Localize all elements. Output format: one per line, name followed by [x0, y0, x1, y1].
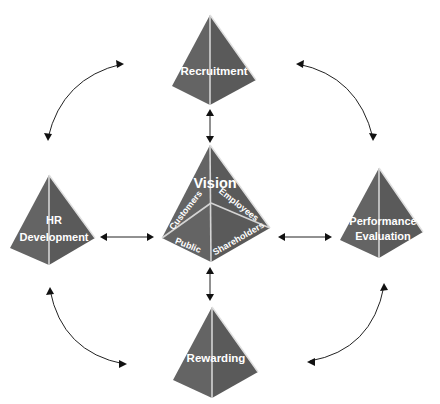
cycle-arrow-bottom-left — [46, 287, 127, 368]
cycle-arrow-top-right — [296, 60, 377, 141]
hr-cycle-diagram: Recruitment HR Development Performance E… — [0, 0, 440, 404]
pyramid-rewarding: Rewarding — [173, 307, 258, 398]
node-label-performance-evaluation-line1: Performance — [349, 215, 416, 227]
cycle-arrow-bottom-right — [307, 283, 388, 366]
node-label-recruitment: Recruitment — [180, 65, 247, 77]
pyramid-recruitment: Recruitment — [172, 15, 256, 105]
pyramid-hr-development: HR Development — [10, 175, 95, 265]
cycle-arrow-top-left — [44, 60, 124, 141]
node-label-hr-development-line1: HR — [46, 214, 62, 226]
pyramid-performance-evaluation: Performance Evaluation — [340, 168, 423, 258]
node-label-performance-evaluation-line2: Evaluation — [355, 230, 411, 242]
vision-title: Vision — [193, 175, 236, 191]
arrow-hr-vision — [100, 233, 154, 241]
node-label-rewarding: Rewarding — [187, 352, 246, 364]
pyramid-vision: Vision Customers Employees Public Shareh… — [162, 145, 270, 262]
node-label-hr-development-line2: Development — [19, 231, 88, 243]
arrow-recruitment-vision — [206, 109, 214, 143]
arrow-vision-rewarding — [206, 267, 214, 301]
arrow-vision-performance — [278, 233, 332, 241]
